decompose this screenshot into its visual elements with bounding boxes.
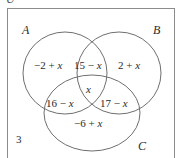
outside-region-count: 3 xyxy=(16,134,22,145)
circle-set-c xyxy=(44,75,140,151)
region-bc-value: 17 − x xyxy=(100,98,128,109)
set-label-c: C xyxy=(138,140,146,152)
region-c-only-value: −6 + x xyxy=(74,118,102,129)
venn-diagram-screenshot: U A B C 3 −2 + x 15 − x 2 + x x 16 − x 1… xyxy=(0,0,179,158)
region-ab-value: 15 − x xyxy=(74,60,102,71)
region-abc-value: x xyxy=(86,84,91,95)
set-label-b: B xyxy=(153,24,160,36)
set-label-a: A xyxy=(22,24,29,36)
region-a-only-value: −2 + x xyxy=(34,60,62,71)
region-b-only-value: 2 + x xyxy=(118,60,140,71)
region-ac-value: 16 − x xyxy=(46,98,74,109)
